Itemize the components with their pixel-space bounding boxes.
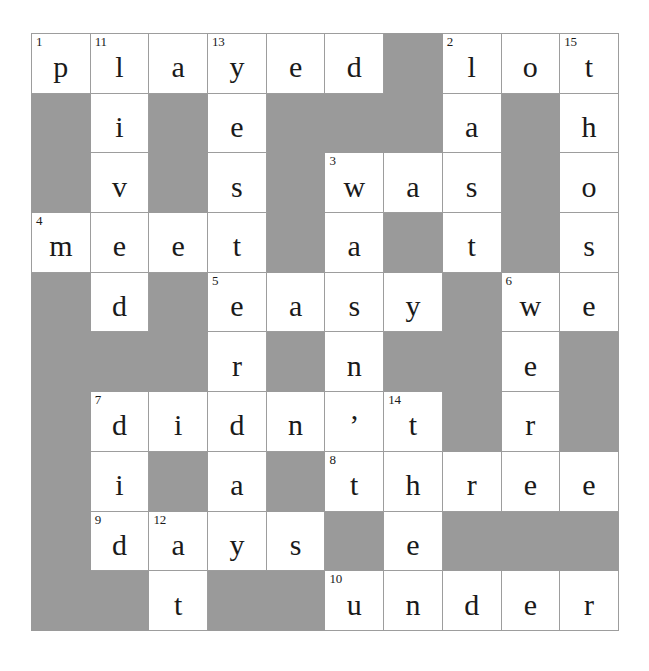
crossword-cell[interactable]: 2l xyxy=(442,34,501,94)
crossword-cell[interactable]: 4m xyxy=(32,213,91,273)
cell-number: 9 xyxy=(95,513,101,526)
crossword-block-cell xyxy=(384,332,443,392)
crossword-cell[interactable]: a xyxy=(384,153,443,213)
crossword-cell[interactable]: 14t xyxy=(384,392,443,452)
crossword-cell[interactable]: 10u xyxy=(325,571,384,631)
crossword-cell[interactable]: y xyxy=(208,511,267,571)
crossword-block-cell xyxy=(149,153,208,213)
crossword-cell[interactable]: t xyxy=(442,213,501,273)
crossword-row: 1p11la13yed2lo15t xyxy=(32,34,619,94)
crossword-cell[interactable]: ’ xyxy=(325,392,384,452)
cell-letter: e xyxy=(149,213,207,271)
crossword-cell[interactable]: i xyxy=(90,93,149,153)
cell-number: 3 xyxy=(329,154,335,167)
cell-number: 6 xyxy=(506,274,512,287)
crossword-cell[interactable]: 11l xyxy=(90,34,149,94)
crossword-block-cell xyxy=(32,451,91,511)
crossword-cell[interactable]: i xyxy=(149,392,208,452)
crossword-block-cell xyxy=(149,451,208,511)
crossword-cell[interactable]: n xyxy=(384,571,443,631)
crossword-cell[interactable]: e xyxy=(501,571,560,631)
crossword-row: vs3waso xyxy=(32,153,619,213)
cell-letter: d xyxy=(443,572,501,630)
crossword-cell[interactable]: a xyxy=(266,272,325,332)
crossword-cell[interactable]: e xyxy=(501,451,560,511)
crossword-cell[interactable]: 9d xyxy=(90,511,149,571)
crossword-cell[interactable]: 13y xyxy=(208,34,267,94)
cell-number: 1 xyxy=(36,35,42,48)
cell-letter: v xyxy=(91,154,149,212)
cell-number: 7 xyxy=(95,393,101,406)
cell-letter: t xyxy=(208,213,266,271)
crossword-cell[interactable]: a xyxy=(149,34,208,94)
crossword-block-cell xyxy=(266,332,325,392)
crossword-block-cell xyxy=(442,272,501,332)
crossword-block-cell xyxy=(32,392,91,452)
crossword-cell[interactable]: a xyxy=(208,451,267,511)
crossword-cell[interactable]: y xyxy=(384,272,443,332)
crossword-block-cell xyxy=(149,332,208,392)
crossword-cell[interactable]: d xyxy=(90,272,149,332)
crossword-cell[interactable]: r xyxy=(501,392,560,452)
cell-letter: e xyxy=(502,572,560,630)
cell-letter: a xyxy=(325,213,383,271)
crossword-cell[interactable]: e xyxy=(149,213,208,273)
crossword-cell[interactable]: e xyxy=(384,511,443,571)
crossword-block-cell xyxy=(325,511,384,571)
crossword-cell[interactable]: 6w xyxy=(501,272,560,332)
crossword-cell[interactable]: e xyxy=(208,93,267,153)
crossword-row: 7didn’14tr xyxy=(32,392,619,452)
crossword-cell[interactable]: d xyxy=(442,571,501,631)
crossword-cell[interactable]: r xyxy=(442,451,501,511)
crossword-cell[interactable]: i xyxy=(90,451,149,511)
cell-letter: n xyxy=(325,333,383,391)
crossword-cell[interactable]: 5e xyxy=(208,272,267,332)
crossword-cell[interactable]: 12a xyxy=(149,511,208,571)
cell-letter: t xyxy=(149,572,207,630)
crossword-cell[interactable]: s xyxy=(560,213,619,273)
crossword-cell[interactable]: a xyxy=(442,93,501,153)
crossword-cell[interactable]: t xyxy=(149,571,208,631)
crossword-cell[interactable]: h xyxy=(384,451,443,511)
crossword-block-cell xyxy=(266,153,325,213)
crossword-cell[interactable]: s xyxy=(442,153,501,213)
crossword-cell[interactable]: e xyxy=(501,332,560,392)
cell-letter: s xyxy=(443,154,501,212)
cell-letter: i xyxy=(91,452,149,510)
crossword-cell[interactable]: o xyxy=(501,34,560,94)
crossword-cell[interactable]: d xyxy=(325,34,384,94)
crossword-cell[interactable]: e xyxy=(90,213,149,273)
crossword-cell[interactable]: 1p xyxy=(32,34,91,94)
crossword-cell[interactable]: e xyxy=(560,272,619,332)
crossword-cell[interactable]: o xyxy=(560,153,619,213)
cell-number: 11 xyxy=(95,35,107,48)
crossword-cell[interactable]: h xyxy=(560,93,619,153)
crossword-cell[interactable]: r xyxy=(560,571,619,631)
cell-letter: i xyxy=(91,94,149,152)
crossword-cell[interactable]: n xyxy=(266,392,325,452)
crossword-block-cell xyxy=(90,332,149,392)
cell-letter: ’ xyxy=(325,392,383,450)
crossword-block-cell xyxy=(32,571,91,631)
cell-letter: e xyxy=(502,333,560,391)
cell-letter: s xyxy=(208,154,266,212)
crossword-cell[interactable]: a xyxy=(325,213,384,273)
cell-letter: e xyxy=(560,452,618,510)
crossword-block-cell xyxy=(442,511,501,571)
crossword-cell[interactable]: d xyxy=(208,392,267,452)
crossword-cell[interactable]: e xyxy=(560,451,619,511)
crossword-cell[interactable]: r xyxy=(208,332,267,392)
crossword-cell[interactable]: 3w xyxy=(325,153,384,213)
crossword-cell[interactable]: 8t xyxy=(325,451,384,511)
crossword-cell[interactable]: t xyxy=(208,213,267,273)
cell-letter: r xyxy=(443,452,501,510)
crossword-cell[interactable]: v xyxy=(90,153,149,213)
crossword-cell[interactable]: s xyxy=(325,272,384,332)
crossword-cell[interactable]: 7d xyxy=(90,392,149,452)
crossword-cell[interactable]: e xyxy=(266,34,325,94)
crossword-block-cell xyxy=(266,93,325,153)
crossword-cell[interactable]: s xyxy=(208,153,267,213)
crossword-cell[interactable]: 15t xyxy=(560,34,619,94)
crossword-cell[interactable]: s xyxy=(266,511,325,571)
crossword-cell[interactable]: n xyxy=(325,332,384,392)
